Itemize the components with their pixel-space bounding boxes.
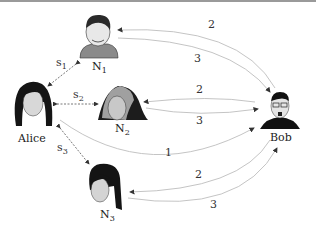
edge-label: 2 bbox=[208, 18, 215, 31]
bob-avatar bbox=[260, 92, 300, 129]
link-s3 bbox=[60, 128, 89, 164]
alice-label: Alice bbox=[17, 132, 46, 145]
n1-avatar bbox=[80, 15, 118, 58]
edge-label: 1 bbox=[165, 146, 172, 159]
edge-bob-n3-2 bbox=[130, 140, 270, 192]
edge-label: 3 bbox=[210, 198, 217, 211]
n2-label: N2 bbox=[115, 122, 130, 137]
n1-label: N1 bbox=[92, 60, 107, 75]
edge-label: 2 bbox=[196, 83, 203, 96]
link-label-s3: s3 bbox=[57, 141, 68, 156]
edge-label: 2 bbox=[195, 168, 202, 181]
bob-label: Bob bbox=[270, 131, 292, 144]
n3-avatar bbox=[89, 164, 122, 210]
edge-alice-bob-1 bbox=[60, 120, 254, 155]
n3-label: N3 bbox=[100, 208, 115, 223]
edge-n3-bob-3 bbox=[128, 148, 277, 201]
protocol-diagram: 2 3 2 3 1 2 3 s1 s2 s3 N1 Alice N2 Bob bbox=[0, 0, 316, 233]
n2-avatar bbox=[98, 86, 148, 120]
alice-avatar bbox=[15, 82, 53, 126]
edge-label: 3 bbox=[196, 114, 203, 127]
edge-n2-bob-3 bbox=[146, 108, 258, 113]
link-label-s2: s2 bbox=[73, 88, 84, 103]
link-label-s1: s1 bbox=[56, 56, 67, 71]
edge-n1-bob-3 bbox=[118, 38, 270, 92]
edge-label: 3 bbox=[194, 52, 201, 65]
edge-bob-n2-2 bbox=[144, 99, 255, 103]
